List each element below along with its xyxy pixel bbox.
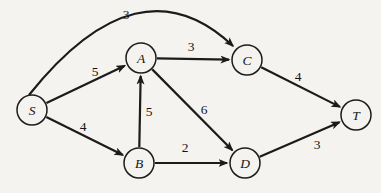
edge-weight-C-T: 4 — [295, 69, 302, 84]
edge-A-C — [157, 58, 229, 59]
edge-weight-S-B: 4 — [80, 119, 87, 134]
edge-weight-S-A: 5 — [92, 64, 99, 79]
node-B: B — [124, 148, 154, 178]
edge-weight-B-D: 2 — [182, 140, 189, 155]
edge-weight-S-C: 3 — [123, 7, 130, 22]
edge-weight-A-D: 6 — [201, 102, 208, 117]
node-label-S: S — [29, 103, 36, 118]
edge-S-A — [46, 66, 124, 103]
node-label-C: C — [242, 53, 252, 68]
edge-D-T — [260, 122, 340, 157]
node-D: D — [230, 148, 260, 178]
edge-A-D — [152, 69, 232, 150]
edge-weight-A-C: 3 — [188, 39, 195, 54]
graph-svg: 354536243SABCDT — [0, 0, 381, 193]
edge-B-A — [139, 76, 140, 147]
node-A: A — [126, 43, 156, 73]
graph-figure: 354536243SABCDT — [0, 0, 381, 193]
node-label-B: B — [135, 156, 143, 171]
node-label-D: D — [239, 156, 250, 171]
edge-weight-B-A: 5 — [146, 104, 153, 119]
node-T: T — [341, 100, 371, 130]
edge-weight-D-T: 3 — [314, 137, 321, 152]
node-label-A: A — [136, 51, 146, 66]
node-C: C — [232, 45, 262, 75]
node-S: S — [17, 95, 47, 125]
